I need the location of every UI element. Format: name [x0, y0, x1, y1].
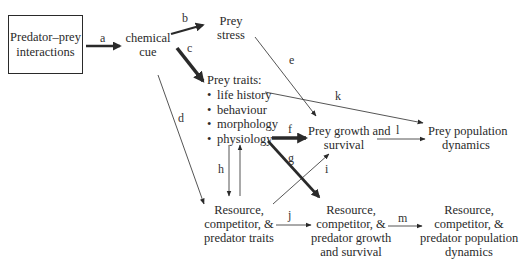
node-text: chemical — [123, 31, 173, 45]
edge-label-i: i — [325, 163, 328, 175]
edge-label-k: k — [335, 90, 341, 102]
node-chemical-cue: chemical cue — [123, 31, 173, 59]
edge-label-b: b — [182, 12, 188, 24]
node-text: Prey growth and — [308, 124, 380, 138]
node-text: competitor, & — [311, 217, 391, 231]
node-text: Resource, — [198, 203, 280, 217]
edge-label-f: f — [288, 123, 292, 135]
node-text: predator growth — [311, 231, 391, 245]
node-text: cue — [123, 45, 173, 59]
node-text: dynamics — [428, 138, 504, 152]
edge-label-j: j — [288, 209, 291, 221]
node-prey-population-dynamics: Prey population dynamics — [428, 124, 504, 152]
node-text: interactions — [10, 45, 81, 60]
node-text: predator population — [420, 231, 518, 245]
trait-list: life history behaviour morphology physio… — [207, 88, 278, 146]
arrow-i — [273, 154, 329, 204]
node-predator-prey-interactions: Predator–prey interactions — [8, 15, 83, 74]
node-text: dynamics — [420, 245, 518, 259]
node-text: stress — [211, 28, 251, 42]
node-text: Prey population — [428, 124, 504, 138]
node-text: competitor, & — [420, 217, 518, 231]
edge-label-c: c — [187, 42, 192, 54]
edge-label-d: d — [178, 112, 184, 124]
edge-label-m: m — [398, 212, 407, 224]
node-prey-growth-survival: Prey growth and survival — [308, 124, 380, 152]
edge-label-e: e — [289, 54, 294, 66]
trait-item: behaviour — [207, 103, 278, 118]
arrow-d — [158, 75, 204, 204]
food-web-diagram: Predator–prey interactions chemical cue … — [0, 0, 522, 264]
arrow-b — [171, 25, 203, 34]
edge-label-g: g — [288, 152, 294, 164]
node-text: and survival — [311, 245, 391, 259]
edge-label-a: a — [100, 32, 105, 44]
edge-label-h: h — [218, 163, 224, 175]
node-rcp-population-dynamics: Resource, competitor, & predator populat… — [420, 203, 518, 259]
trait-item: morphology — [207, 117, 278, 132]
node-prey-stress: Prey stress — [211, 14, 251, 42]
node-text: competitor, & — [198, 217, 280, 231]
node-text: Prey — [211, 14, 251, 28]
edge-label-l: l — [396, 124, 399, 136]
node-rcp-growth-survival: Resource, competitor, & predator growth … — [311, 203, 391, 259]
trait-item: life history — [207, 88, 278, 103]
node-text: Resource, — [311, 203, 391, 217]
node-text: predator traits — [198, 231, 280, 245]
arrow-k — [265, 92, 423, 123]
trait-item: physiology — [207, 132, 278, 147]
node-text: Predator–prey — [10, 30, 81, 45]
node-rcp-traits: Resource, competitor, & predator traits — [198, 203, 280, 245]
node-text: survival — [308, 138, 380, 152]
node-prey-traits: Prey traits: life history behaviour morp… — [207, 73, 278, 146]
node-text: Resource, — [420, 203, 518, 217]
node-title: Prey traits: — [207, 73, 278, 88]
